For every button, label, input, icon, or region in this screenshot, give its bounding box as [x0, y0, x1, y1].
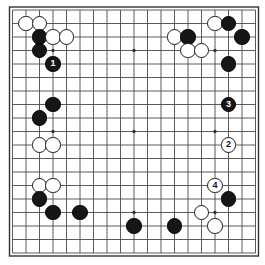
- star-point: [213, 49, 216, 52]
- star-point: [132, 130, 135, 133]
- black-stone[interactable]: [72, 205, 88, 221]
- move-number-label: 2: [226, 140, 231, 149]
- star-point: [51, 49, 54, 52]
- black-stone[interactable]: [45, 97, 61, 113]
- black-stone[interactable]: [126, 218, 142, 234]
- star-point: [132, 211, 135, 214]
- black-stone[interactable]: [234, 29, 250, 45]
- go-board[interactable]: 1324: [0, 0, 265, 265]
- move-number-label: 3: [226, 100, 231, 109]
- go-diagram-root: 1324: [0, 0, 265, 265]
- white-stone[interactable]: [45, 178, 61, 194]
- black-stone[interactable]: [221, 191, 237, 207]
- black-stone[interactable]: [32, 110, 48, 126]
- black-stone[interactable]: [221, 56, 237, 72]
- star-point: [132, 49, 135, 52]
- star-point: [51, 130, 54, 133]
- black-stone[interactable]: [32, 191, 48, 207]
- white-stone[interactable]: [45, 137, 61, 153]
- white-stone[interactable]: [59, 29, 75, 45]
- star-point: [213, 130, 216, 133]
- move-stone-4[interactable]: 4: [207, 178, 223, 194]
- white-stone[interactable]: [207, 218, 223, 234]
- black-stone[interactable]: [167, 218, 183, 234]
- star-point: [213, 211, 216, 214]
- black-stone[interactable]: [45, 205, 61, 221]
- move-stone-1[interactable]: 1: [45, 56, 61, 72]
- move-number-label: 4: [212, 181, 217, 190]
- move-number-label: 1: [50, 59, 55, 68]
- move-stone-2[interactable]: 2: [221, 137, 237, 153]
